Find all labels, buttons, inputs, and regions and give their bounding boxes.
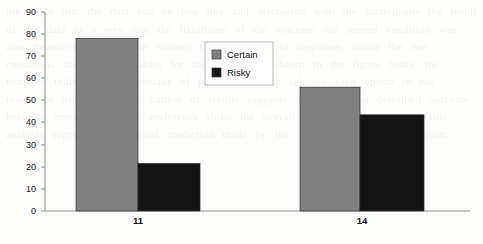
legend-label-certain: Certain <box>227 49 258 60</box>
bar-risky-group-11 <box>138 164 200 212</box>
y-tick-label-10: 10 <box>26 184 36 194</box>
legend-item-risky: Risky <box>212 67 250 78</box>
chart-legend: Certain Risky <box>205 42 273 85</box>
legend-label-risky: Risky <box>227 67 250 78</box>
legend-item-certain: Certain <box>212 49 258 60</box>
y-tick-label-40: 40 <box>26 117 36 127</box>
bar-certain-group-14 <box>300 87 360 211</box>
y-tick-label-90: 90 <box>26 7 36 17</box>
y-tick-label-60: 60 <box>26 73 36 83</box>
y-tick-label-20: 20 <box>26 162 36 172</box>
bar-certain-group-11 <box>76 39 138 212</box>
certain-swatch-icon <box>212 50 221 59</box>
bar-risky-group-14 <box>360 115 424 211</box>
x-category-label-11: 11 <box>133 215 144 226</box>
y-tick-label-70: 70 <box>26 51 36 61</box>
y-tick-label-50: 50 <box>26 95 36 105</box>
x-category-label-14: 14 <box>357 215 368 226</box>
y-tick-label-0: 0 <box>31 206 36 216</box>
y-tick-label-80: 80 <box>26 29 36 39</box>
risky-swatch-icon <box>212 68 221 77</box>
y-tick-label-30: 30 <box>26 140 36 150</box>
bar-chart: 90 80 70 60 50 40 30 20 10 0 11 14 Certa… <box>0 0 483 244</box>
